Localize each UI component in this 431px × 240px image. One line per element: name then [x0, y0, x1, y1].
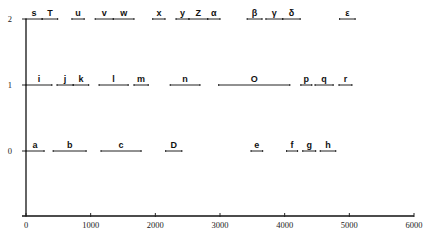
interval-k: k — [73, 74, 89, 86]
interval-label: y — [180, 8, 185, 18]
interval-label: γ — [272, 8, 277, 18]
interval-label: i — [38, 74, 41, 84]
interval-label: m — [137, 74, 145, 84]
interval-label: g — [306, 140, 312, 150]
y-tick-label: 2 — [8, 14, 12, 24]
interval-label: u — [75, 8, 81, 18]
x-tick-label: 4000 — [276, 220, 293, 230]
axes — [22, 19, 414, 216]
interval-w: w — [113, 8, 134, 20]
interval-label: O — [251, 74, 258, 84]
interval-label: v — [102, 8, 107, 18]
x-tick-label: 5000 — [341, 220, 358, 230]
interval-p: p — [301, 74, 312, 86]
x-tick-label: 3000 — [212, 220, 229, 230]
interval-label: n — [182, 74, 188, 84]
interval-j: j — [57, 74, 73, 86]
interval-chart: 0100020003000400050006000 012 sTuvwxyZαβ… — [0, 0, 431, 240]
interval-label: s — [32, 8, 37, 18]
interval-label: k — [78, 74, 84, 84]
y-tick-label: 0 — [8, 146, 12, 156]
interval-e: e — [251, 140, 263, 152]
interval-T: T — [42, 8, 58, 20]
interval-label: q — [321, 74, 327, 84]
interval-label: l — [112, 74, 115, 84]
x-tick-label: 6000 — [406, 220, 423, 230]
x-tick-label: 1000 — [82, 220, 99, 230]
interval-label: α — [211, 8, 217, 18]
interval-label: h — [325, 140, 331, 150]
interval-label: e — [254, 140, 259, 150]
interval-l: l — [99, 74, 128, 86]
interval-label: f — [291, 140, 295, 150]
interval-g: g — [303, 140, 316, 152]
interval-label: c — [119, 140, 124, 150]
interval-q: q — [315, 74, 333, 86]
interval-v: v — [95, 8, 113, 20]
interval-label: a — [33, 140, 39, 150]
interval-label: δ — [289, 8, 295, 18]
interval-m: m — [134, 74, 148, 86]
interval-label: j — [63, 74, 67, 84]
interval-h: h — [320, 140, 336, 152]
y-tick-label: 1 — [8, 80, 12, 90]
interval-a: a — [26, 140, 44, 152]
interval-i: i — [26, 74, 52, 86]
interval-label: Z — [196, 8, 202, 18]
interval-label: p — [304, 74, 310, 84]
x-tick-label: 0 — [24, 220, 28, 230]
interval-O: O — [219, 74, 290, 86]
interval-α: α — [208, 8, 220, 20]
interval-label: r — [344, 74, 348, 84]
interval-label: b — [67, 140, 73, 150]
interval-label: ε — [345, 8, 350, 18]
interval-r: r — [339, 74, 352, 86]
interval-label: D — [171, 140, 178, 150]
interval-u: u — [72, 8, 84, 20]
interval-label: x — [156, 8, 161, 18]
interval-y: y — [176, 8, 189, 20]
interval-label: w — [119, 8, 128, 18]
interval-β: β — [247, 8, 262, 20]
interval-label: β — [252, 8, 258, 18]
interval-Z: Z — [189, 8, 208, 20]
interval-c: c — [101, 140, 141, 152]
y-axis-ticks: 012 — [8, 14, 26, 156]
interval-label: T — [47, 8, 53, 18]
interval-ε: ε — [340, 8, 356, 20]
x-tick-label: 2000 — [147, 220, 164, 230]
interval-f: f — [287, 140, 298, 152]
interval-D: D — [166, 140, 182, 152]
interval-x: x — [153, 8, 165, 20]
interval-b: b — [53, 140, 86, 152]
interval-s: s — [26, 8, 42, 20]
interval-γ: γ — [266, 8, 283, 20]
interval-n: n — [170, 74, 200, 86]
interval-δ: δ — [283, 8, 300, 20]
interval-segments: sTuvwxyZαβγδεijklmnOpqrabcDefgh — [26, 8, 355, 152]
